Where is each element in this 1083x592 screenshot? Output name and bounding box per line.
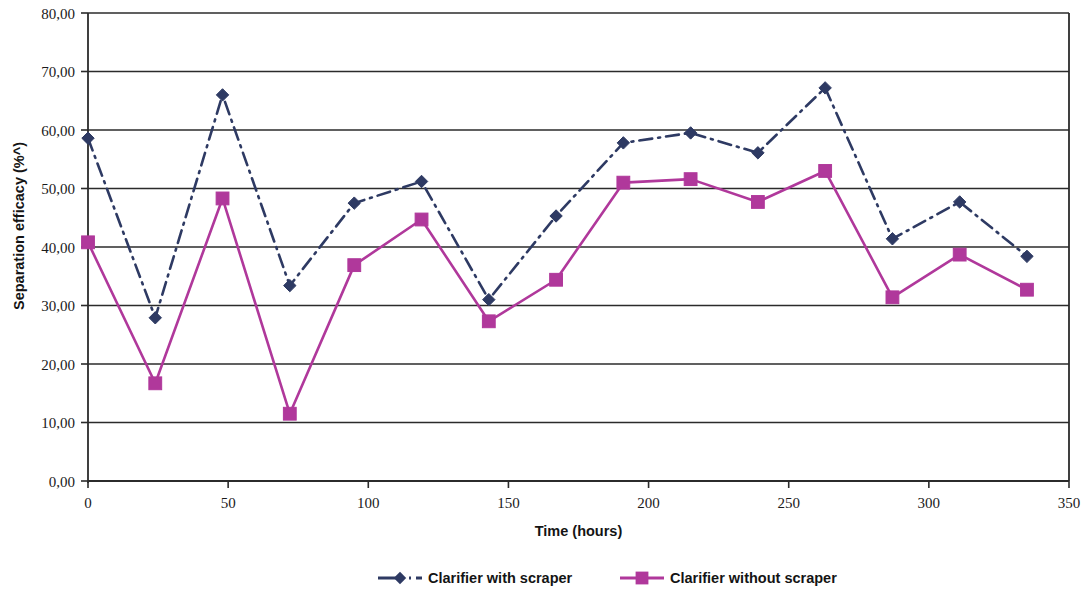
data-point-marker xyxy=(415,213,428,226)
chart-container: 0,0010,0020,0030,0040,0050,0060,0070,008… xyxy=(0,0,1083,592)
data-point-marker xyxy=(415,175,427,187)
legend-item-1: Clarifier with scraper xyxy=(378,570,573,586)
y-axis-title: Separation efficacy (%^) xyxy=(11,142,27,310)
chart-legend: Clarifier with scraperClarifier without … xyxy=(378,570,837,586)
x-tick-label: 200 xyxy=(637,495,660,511)
line-chart: 0,0010,0020,0030,0040,0050,0060,0070,008… xyxy=(0,0,1083,592)
data-point-marker xyxy=(1021,283,1034,296)
y-axis-tick-labels: 0,0010,0020,0030,0040,0050,0060,0070,008… xyxy=(41,6,75,490)
data-point-marker xyxy=(82,236,95,249)
x-axis-title: Time (hours) xyxy=(535,523,623,539)
x-tick-label: 250 xyxy=(777,495,800,511)
series-2 xyxy=(82,165,1034,421)
data-point-marker xyxy=(684,173,697,186)
data-point-marker xyxy=(482,315,495,328)
data-point-marker xyxy=(348,197,360,209)
data-point-marker xyxy=(684,127,696,139)
legend-label: Clarifier with scraper xyxy=(428,570,573,586)
y-tick-label: 10,00 xyxy=(41,415,75,431)
data-point-marker xyxy=(82,132,94,144)
legend-label: Clarifier without scraper xyxy=(670,570,837,586)
y-tick-label: 30,00 xyxy=(41,298,75,314)
y-tick-label: 0,00 xyxy=(49,474,75,490)
data-point-marker xyxy=(751,196,764,209)
y-tick-label: 20,00 xyxy=(41,357,75,373)
y-tick-label: 60,00 xyxy=(41,123,75,139)
x-tick-label: 0 xyxy=(84,495,92,511)
data-point-marker xyxy=(550,273,563,286)
data-point-marker xyxy=(149,377,162,390)
y-tick-label: 40,00 xyxy=(41,240,75,256)
data-point-marker xyxy=(283,407,296,420)
legend-item-2: Clarifier without scraper xyxy=(620,570,837,586)
data-point-marker xyxy=(953,248,966,261)
data-point-marker xyxy=(216,192,229,205)
legend-marker xyxy=(394,572,406,584)
x-tick-label: 50 xyxy=(221,495,236,511)
legend-marker xyxy=(636,572,649,585)
data-point-marker xyxy=(348,259,361,272)
data-point-marker xyxy=(886,233,898,245)
data-point-marker xyxy=(1021,250,1033,262)
x-tick-label: 350 xyxy=(1058,495,1081,511)
data-point-marker xyxy=(149,312,161,324)
data-point-marker xyxy=(216,89,228,101)
data-point-marker xyxy=(819,165,832,178)
x-tick-label: 150 xyxy=(497,495,520,511)
x-axis-tick-labels: 050100150200250300350 xyxy=(84,495,1080,511)
x-tick-label: 100 xyxy=(357,495,380,511)
data-point-marker xyxy=(617,176,630,189)
y-tick-label: 70,00 xyxy=(41,64,75,80)
x-tick-label: 300 xyxy=(918,495,941,511)
y-tick-label: 50,00 xyxy=(41,181,75,197)
y-tick-label: 80,00 xyxy=(41,6,75,22)
data-series-group xyxy=(82,82,1034,420)
data-point-marker xyxy=(886,291,899,304)
